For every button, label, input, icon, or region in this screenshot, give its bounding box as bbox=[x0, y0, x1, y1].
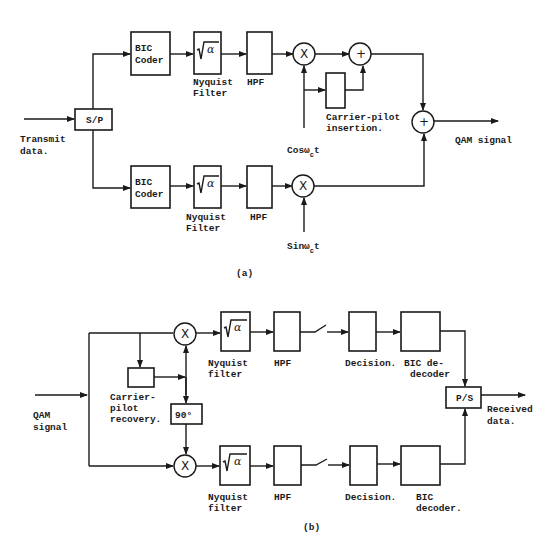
carrier-pilot-insertion-block bbox=[326, 73, 345, 108]
mixer-lower-symbol: X bbox=[299, 179, 307, 193]
qam-input-label1: QAM bbox=[33, 410, 50, 421]
qam-block-diagram: Transmit data. S/P BIC Coder α Nyquist F… bbox=[0, 0, 557, 543]
nyquist-upper-label1: Nyquist bbox=[193, 77, 233, 88]
nyquist-lower-label1: Nyquist bbox=[186, 212, 226, 223]
transmit-label-line1: Transmit bbox=[20, 134, 66, 145]
qam-input-label2: signal bbox=[33, 422, 68, 433]
received-label2: data. bbox=[487, 416, 516, 427]
recovery-label2: pilot bbox=[110, 403, 139, 414]
bic-dedecoder-label1: BIC de- bbox=[404, 358, 444, 369]
bic-dedecoder-block bbox=[401, 312, 440, 351]
bic-coder-upper-line1: BIC bbox=[135, 43, 152, 54]
mixer-upper-symbol: X bbox=[300, 47, 308, 61]
hpf-rx-upper bbox=[274, 312, 300, 351]
decision-rx-lower-label: Decision. bbox=[345, 492, 396, 503]
carrier-pilot-label1: Carrier-pilot bbox=[326, 112, 400, 123]
sin-label: Sinωct bbox=[287, 241, 320, 255]
ps-label: P/S bbox=[456, 393, 473, 404]
bic-coder-lower-line1: BIC bbox=[135, 177, 152, 188]
alpha-symbol: α bbox=[207, 177, 215, 190]
hpf-rx-lower bbox=[274, 446, 301, 485]
nyquist-rx-upper-label2: filter bbox=[208, 369, 243, 380]
bic-coder-lower-line2: Coder bbox=[135, 189, 164, 200]
decision-rx-upper-label: Decision. bbox=[345, 358, 396, 369]
hpf-upper bbox=[247, 32, 272, 74]
figure-a-caption: (a) bbox=[236, 268, 253, 279]
sp-label: S/P bbox=[86, 115, 103, 126]
sp-upper-branch bbox=[93, 54, 130, 109]
carrier-pilot-label2: insertion. bbox=[326, 123, 383, 134]
nyquist-rx-lower-label2: filter bbox=[208, 503, 243, 514]
hpf-upper-label: HPF bbox=[247, 77, 264, 88]
sp-lower-branch bbox=[93, 130, 130, 188]
hpf-lower-label: HPF bbox=[250, 212, 267, 223]
figure-b-caption: (b) bbox=[303, 522, 320, 533]
nyquist-rx-lower-label1: Nyquist bbox=[208, 492, 248, 503]
recovery-label1: Carrier- bbox=[110, 392, 156, 403]
sampler-switch-lower bbox=[301, 459, 327, 465]
qam-output-label: QAM signal bbox=[455, 135, 512, 146]
arrow bbox=[440, 409, 465, 464]
bic-dedecoder-label2: decoder bbox=[410, 369, 450, 380]
mixer-rx-upper-symbol: X bbox=[181, 327, 189, 341]
mixer-rx-lower-symbol: X bbox=[181, 459, 189, 473]
nyquist-lower-label2: Filter bbox=[186, 223, 221, 234]
transmit-label-line2: data. bbox=[20, 146, 49, 157]
decision-rx-lower bbox=[350, 446, 377, 485]
received-label1: Received bbox=[487, 404, 533, 415]
alpha-symbol: α bbox=[234, 455, 242, 468]
nyquist-rx-upper-label1: Nyquist bbox=[208, 358, 248, 369]
alpha-symbol: α bbox=[234, 321, 242, 334]
nyquist-upper-label2: Filter bbox=[193, 88, 228, 99]
alpha-symbol: α bbox=[207, 43, 215, 56]
arrow bbox=[371, 54, 423, 110]
sampler-switch-upper bbox=[300, 325, 326, 332]
bic-decoder-label2: decoder. bbox=[416, 503, 462, 514]
arrow bbox=[345, 66, 363, 90]
bic-decoder-label1: BIC bbox=[416, 492, 433, 503]
phase-shift-label: 90° bbox=[175, 410, 192, 421]
arrow bbox=[314, 134, 424, 186]
hpf-rx-upper-label: HPF bbox=[274, 358, 291, 369]
cos-label: Cosωct bbox=[287, 145, 320, 159]
bic-coder-upper-line2: Coder bbox=[135, 55, 164, 66]
carrier-pilot-recovery-block bbox=[128, 368, 154, 387]
adder-upper-symbol: + bbox=[356, 47, 366, 61]
recovery-label3: recovery. bbox=[110, 414, 161, 425]
figure-b-receiver: QAM signal Carrier- pilot recovery. 90° … bbox=[33, 312, 533, 533]
final-adder-symbol: + bbox=[419, 115, 429, 129]
figure-a-transmitter: Transmit data. S/P BIC Coder α Nyquist F… bbox=[20, 32, 512, 279]
decision-rx-upper bbox=[349, 312, 376, 351]
hpf-rx-lower-label: HPF bbox=[274, 492, 291, 503]
hpf-lower bbox=[247, 166, 272, 208]
bic-decoder-block bbox=[401, 446, 440, 485]
